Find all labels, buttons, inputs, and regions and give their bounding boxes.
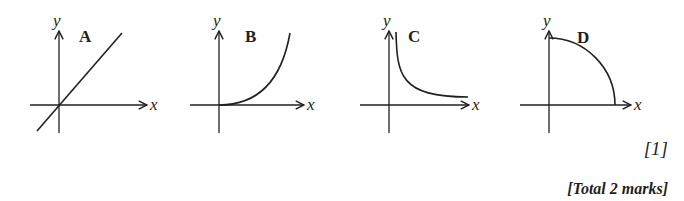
question-marks: [1] [644,138,668,160]
total-marks: [Total 2 marks] [567,180,668,198]
y-axis-label: y [541,11,551,30]
x-axis-label: x [306,95,315,114]
graph-label: A [79,27,92,46]
graph-b: x y B [190,11,315,133]
graph-label: B [245,27,256,46]
graph-c: x y C [360,11,480,133]
x-axis-label: x [471,95,480,114]
linear-line [37,33,122,131]
graph-d: x y D [520,11,642,133]
graph-label: C [408,27,420,46]
quarter-circle-curve [549,38,615,105]
y-axis-label: y [51,11,61,30]
x-axis-label: x [633,95,642,114]
x-axis-label: x [149,95,158,114]
inverse-curve [396,32,468,97]
graph-label: D [577,28,589,47]
y-axis-label: y [381,11,391,30]
graph-a: x y A [30,11,158,133]
y-axis-label: y [211,11,221,30]
graphs-figure: x y A x y B x y C x y D [0,0,684,201]
